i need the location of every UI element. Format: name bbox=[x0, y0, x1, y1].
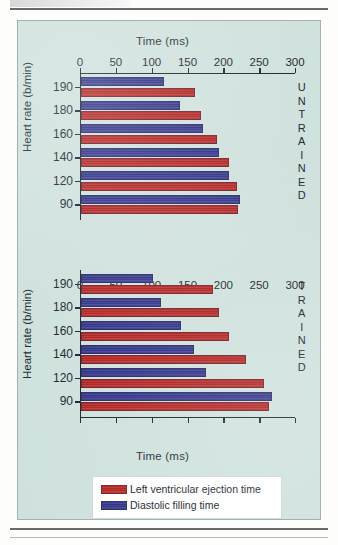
bar-blue bbox=[81, 101, 180, 110]
group-label-letter: A bbox=[294, 307, 310, 321]
y-axis-title-trained: Heart rate (b/min) bbox=[21, 274, 33, 394]
x-tick-label: 250 bbox=[250, 56, 269, 68]
group-label-letter: I bbox=[294, 321, 310, 335]
x-tick-label: 150 bbox=[178, 56, 197, 68]
y-tick-label: 120 bbox=[53, 371, 73, 385]
x-tick-label: 0 bbox=[77, 56, 83, 68]
group-label-trained: TRAINED bbox=[294, 280, 310, 375]
x-tick bbox=[223, 418, 224, 423]
bar-blue bbox=[81, 298, 161, 307]
bar-blue bbox=[81, 368, 206, 377]
legend-item: Diastolic filling time bbox=[101, 498, 275, 512]
x-tick bbox=[259, 418, 260, 423]
page-canvas: Time (ms) Heart rate (b/min) 05010015020… bbox=[0, 0, 338, 545]
y-tick bbox=[75, 401, 80, 402]
bar-red bbox=[81, 88, 195, 97]
legend-item: Left ventricular ejection time bbox=[101, 482, 275, 496]
figure-panel: Time (ms) Heart rate (b/min) 05010015020… bbox=[17, 20, 321, 520]
y-tick-label: 180 bbox=[53, 103, 73, 117]
y-tick-label: 160 bbox=[53, 127, 73, 141]
x-tick bbox=[116, 418, 117, 423]
x-tick-label: 250 bbox=[250, 279, 269, 291]
bar-red bbox=[81, 205, 238, 214]
group-label-letter: T bbox=[294, 108, 310, 122]
group-label-letter: D bbox=[294, 361, 310, 375]
group-label-letter: N bbox=[294, 162, 310, 176]
bar-red bbox=[81, 158, 229, 167]
x-axis-trained bbox=[80, 417, 295, 418]
y-tick bbox=[75, 354, 80, 355]
bar-red bbox=[81, 182, 237, 191]
page-rule-bottom bbox=[10, 528, 328, 530]
x-tick bbox=[188, 418, 189, 423]
group-label-letter: E bbox=[294, 176, 310, 190]
x-tick-labels-untrained: 050100150200250300 bbox=[80, 56, 295, 70]
bar-blue bbox=[81, 392, 272, 401]
chart-panel-trained: Heart rate (b/min) 050100150200250300 19… bbox=[18, 264, 322, 479]
group-label-untrained: UNTRAINED bbox=[294, 81, 310, 203]
plot-area-trained: 050100150200250300 19018016014012090 bbox=[80, 270, 295, 417]
group-label-letter: R bbox=[294, 122, 310, 136]
bar-red bbox=[81, 111, 201, 120]
group-label-letter: U bbox=[294, 81, 310, 95]
y-tick bbox=[75, 134, 80, 135]
y-tick bbox=[75, 204, 80, 205]
y-tick bbox=[75, 284, 80, 285]
group-label-letter: N bbox=[294, 334, 310, 348]
page-artifact bbox=[10, 0, 130, 7]
x-tick bbox=[80, 418, 81, 423]
chart-legend: Left ventricular ejection timeDiastolic … bbox=[92, 476, 282, 519]
legend-swatch-red bbox=[101, 485, 127, 494]
y-tick bbox=[75, 110, 80, 111]
chart-panel-untrained: Time (ms) Heart rate (b/min) 05010015020… bbox=[18, 37, 322, 252]
y-tick-label: 190 bbox=[53, 80, 73, 94]
bar-blue bbox=[81, 274, 153, 283]
group-label-letter: N bbox=[294, 95, 310, 109]
page-rule-bottom-hairline bbox=[10, 537, 328, 538]
y-tick bbox=[75, 378, 80, 379]
y-tick bbox=[75, 331, 80, 332]
bar-blue bbox=[81, 124, 203, 133]
bar-red bbox=[81, 135, 217, 144]
legend-label: Diastolic filling time bbox=[130, 499, 219, 511]
x-tick-label: 200 bbox=[214, 56, 233, 68]
group-label-letter: A bbox=[294, 135, 310, 149]
y-tick bbox=[75, 87, 80, 88]
bar-red bbox=[81, 355, 246, 364]
legend-swatch-blue bbox=[101, 501, 127, 510]
group-label-letter: E bbox=[294, 348, 310, 362]
x-tick bbox=[295, 68, 296, 73]
bar-red bbox=[81, 308, 219, 317]
y-tick-label: 120 bbox=[53, 174, 73, 188]
bar-red bbox=[81, 285, 213, 294]
bar-blue bbox=[81, 77, 164, 86]
bar-blue bbox=[81, 321, 181, 330]
x-tick-label: 200 bbox=[214, 279, 233, 291]
y-tick-label: 90 bbox=[60, 394, 73, 408]
plot-area-untrained: 050100150200250300 19018016014012090 bbox=[80, 73, 295, 220]
bar-blue bbox=[81, 195, 240, 204]
y-axis-title-untrained: Heart rate (b/min) bbox=[21, 47, 33, 167]
y-tick-label: 160 bbox=[53, 324, 73, 338]
y-tick-label: 90 bbox=[60, 197, 73, 211]
legend-label: Left ventricular ejection time bbox=[130, 483, 261, 495]
y-tick-label: 190 bbox=[53, 277, 73, 291]
x-tick-label: 100 bbox=[142, 56, 161, 68]
group-label-letter: I bbox=[294, 149, 310, 163]
y-tick-label: 180 bbox=[53, 300, 73, 314]
x-axis-untrained bbox=[80, 73, 295, 74]
bar-blue bbox=[81, 148, 219, 157]
group-label-letter: D bbox=[294, 189, 310, 203]
x-tick-label: 300 bbox=[285, 56, 304, 68]
bar-red bbox=[81, 332, 229, 341]
page-rule-top bbox=[10, 8, 328, 10]
x-tick-label: 50 bbox=[109, 56, 122, 68]
x-tick bbox=[152, 418, 153, 423]
y-tick-label: 140 bbox=[53, 347, 73, 361]
x-axis-title-trained: Time (ms) bbox=[136, 450, 189, 462]
group-label-letter: R bbox=[294, 294, 310, 308]
x-axis-title-untrained: Time (ms) bbox=[136, 35, 189, 47]
group-label-letter: T bbox=[294, 280, 310, 294]
bar-blue bbox=[81, 345, 194, 354]
y-tick bbox=[75, 157, 80, 158]
